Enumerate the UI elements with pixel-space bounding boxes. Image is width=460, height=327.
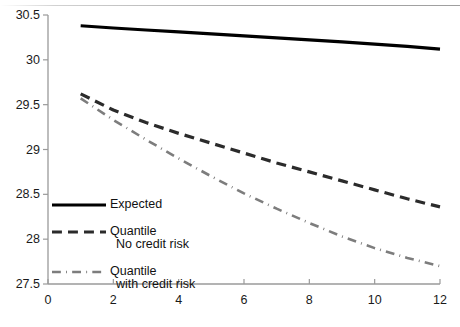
x-tick-label: 0 xyxy=(28,294,68,307)
x-tick-label: 12 xyxy=(420,294,460,307)
y-tick-label: 29.5 xyxy=(16,99,40,112)
series-line-0 xyxy=(81,26,440,49)
legend-label-2-line2: with credit risk xyxy=(116,278,195,291)
chart-figure: 27.52828.52929.53030.5 024681012 Expecte… xyxy=(0,0,460,327)
x-tick-label: 10 xyxy=(355,294,395,307)
x-tick-label: 2 xyxy=(93,294,133,307)
y-tick-label: 30 xyxy=(26,54,40,67)
legend-swatch-2 xyxy=(52,265,108,278)
y-tick-label: 28 xyxy=(26,233,40,246)
x-tick-label: 6 xyxy=(224,294,264,307)
legend-swatch-0 xyxy=(52,198,108,211)
y-tick-label: 29 xyxy=(26,144,40,157)
x-tick-label: 8 xyxy=(289,294,329,307)
y-tick-label: 30.5 xyxy=(16,9,40,22)
legend-swatch-1 xyxy=(52,225,108,238)
y-tick-label: 28.5 xyxy=(16,188,40,201)
y-tick-label: 27.5 xyxy=(16,278,40,291)
legend-label-1-line2: No credit risk xyxy=(116,238,189,251)
x-tick-label: 4 xyxy=(159,294,199,307)
series-line-1 xyxy=(81,94,440,207)
legend-label-0: Expected xyxy=(110,198,162,211)
